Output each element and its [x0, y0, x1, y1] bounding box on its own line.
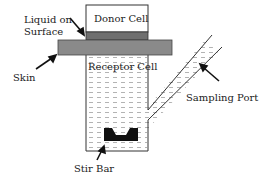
liquid-layer [86, 32, 148, 40]
stir-bar-label: Stir Bar [74, 163, 114, 174]
donor-cell-label: Donor Cell [94, 13, 148, 24]
liquid-label-line2: Surface [24, 26, 63, 37]
liquid-label-line1: Liquid on [24, 14, 72, 25]
sampling-arrow-icon [204, 68, 219, 81]
skin-membrane [58, 40, 172, 55]
diffusion-cell-diagram: Donor Cell Liquid on Surface Skin Recept… [0, 0, 259, 183]
receptor-cell-label: Receptor Cell [88, 61, 157, 72]
sampling-port-label: Sampling Port [186, 92, 258, 103]
skin-label: Skin [13, 72, 36, 83]
skin-arrow-icon [36, 58, 52, 69]
